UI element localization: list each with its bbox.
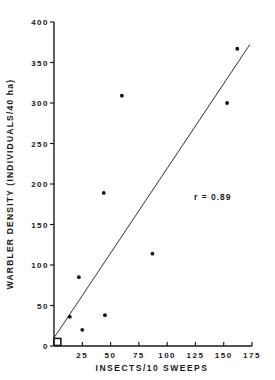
- data-point: [151, 252, 155, 256]
- x-tick-label: 25: [76, 351, 88, 360]
- data-point: [80, 328, 84, 332]
- y-tick-label: 150: [31, 221, 49, 230]
- axis-ticks: 0501001502002503003504002550751001251501…: [31, 18, 261, 360]
- x-tick-label: 100: [158, 351, 176, 360]
- data-point: [120, 94, 124, 98]
- data-point-square: [54, 338, 61, 345]
- data-point: [103, 313, 107, 317]
- data-point: [68, 315, 72, 319]
- y-tick-label: 200: [31, 180, 49, 189]
- x-tick-label: 125: [186, 351, 204, 360]
- x-axis-label: INSECTS/10 SWEEPS: [96, 363, 209, 373]
- axes: [54, 22, 252, 346]
- y-axis-label: WARBLER DENSITY (INDIVIDUALS/40 ha): [5, 79, 15, 289]
- correlation-annotation: r = 0.89: [194, 192, 232, 202]
- y-tick-label: 0: [43, 342, 49, 351]
- plot-area: 0501001502002503003504002550751001251501…: [0, 0, 275, 380]
- x-tick-label: 175: [243, 351, 261, 360]
- x-tick-label: 50: [105, 351, 117, 360]
- y-tick-label: 300: [31, 99, 49, 108]
- x-tick-label: 75: [133, 351, 145, 360]
- scatter-chart: 0501001502002503003504002550751001251501…: [0, 0, 275, 380]
- y-tick-label: 400: [31, 18, 49, 27]
- y-tick-label: 350: [31, 59, 49, 68]
- y-tick-label: 50: [37, 302, 49, 311]
- data-point: [102, 191, 106, 195]
- y-tick-label: 250: [31, 140, 49, 149]
- data-point: [225, 101, 229, 105]
- data-point: [235, 47, 239, 51]
- x-tick-label: 150: [215, 351, 233, 360]
- data-point: [77, 275, 81, 279]
- y-tick-label: 100: [31, 261, 49, 270]
